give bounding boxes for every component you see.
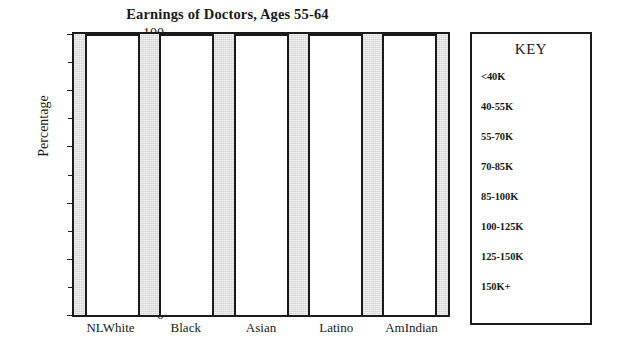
legend-entry: 55-70K xyxy=(481,132,590,143)
legend-entry: <40K xyxy=(481,72,590,83)
legend-entry: 100-125K xyxy=(481,222,590,233)
y-axis-title: Percentage xyxy=(36,66,52,186)
x-tick-label: Black xyxy=(158,320,213,340)
bar-black xyxy=(159,34,214,315)
bar-amindian xyxy=(382,34,437,315)
legend-entry: 85-100K xyxy=(481,192,590,203)
legend-entry: 40-55K xyxy=(481,102,590,113)
legend-entry: 150K+ xyxy=(481,282,590,293)
page-title: Earnings of Doctors, Ages 55-64 xyxy=(0,6,455,23)
plot-area xyxy=(72,32,450,317)
x-tick-label: Latino xyxy=(309,320,364,340)
x-axis-tick-labels: NLWhiteBlackAsianLatinoAmIndian xyxy=(72,320,450,340)
bar-nlwhite xyxy=(85,34,140,315)
legend-entry-list: <40K40-55K55-70K70-85K85-100K100-125K125… xyxy=(472,72,590,293)
legend-box: KEY <40K40-55K55-70K70-85K85-100K100-125… xyxy=(470,32,592,325)
legend-entry: 125-150K xyxy=(481,252,590,263)
x-tick-label: AmIndian xyxy=(384,320,439,340)
bar-asian xyxy=(234,34,289,315)
legend-entry: 70-85K xyxy=(481,162,590,173)
x-tick-label: Asian xyxy=(234,320,289,340)
bar-series xyxy=(74,34,448,315)
bar-latino xyxy=(308,34,363,315)
x-tick-label: NLWhite xyxy=(83,320,138,340)
legend-title: KEY xyxy=(472,41,590,58)
